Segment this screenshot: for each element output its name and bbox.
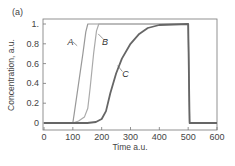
x-tick-label: 300 xyxy=(123,132,138,142)
y-tick-label: 0.6 xyxy=(26,59,39,69)
x-tick-label: 600 xyxy=(209,132,224,142)
x-axis-label: Time a.u. xyxy=(112,142,147,152)
curve-label-c: C xyxy=(122,69,129,79)
curve-label-a: A xyxy=(66,37,73,47)
y-tick-label: 0.2 xyxy=(26,98,39,108)
x-tick-label: 100 xyxy=(65,132,80,142)
y-axis-label: Concentration, a.u. xyxy=(6,39,16,111)
chart: (a) 0100200300400500600 00.20.40.60.81. … xyxy=(0,0,235,166)
plot-frame xyxy=(43,19,217,130)
y-tick-label: 0.8 xyxy=(26,39,39,49)
y-tick-label: 0 xyxy=(34,118,39,128)
x-tick-label: 0 xyxy=(41,132,46,142)
y-tick-label: 0.4 xyxy=(26,78,39,88)
x-axis: 0100200300400500600 xyxy=(41,127,224,142)
y-tick-label: 1. xyxy=(31,19,39,29)
x-tick-label: 500 xyxy=(181,132,196,142)
leader-line-a xyxy=(73,42,77,46)
panel-label: (a) xyxy=(12,7,23,17)
x-tick-label: 400 xyxy=(152,132,167,142)
annotations: ABC xyxy=(66,34,129,79)
x-tick-label: 200 xyxy=(94,132,109,142)
